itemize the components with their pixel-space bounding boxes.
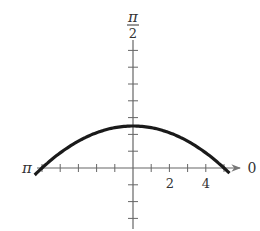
- tick-label-4: 4: [202, 176, 210, 191]
- label-zero: 0: [248, 160, 257, 176]
- label-pi-half-denominator: 2: [129, 26, 137, 41]
- polar-graph: π 2 π 0 2 4: [0, 0, 260, 231]
- label-pi-half-numerator: π: [127, 8, 139, 26]
- tick-label-2: 2: [166, 176, 174, 191]
- label-pi: π: [21, 159, 33, 177]
